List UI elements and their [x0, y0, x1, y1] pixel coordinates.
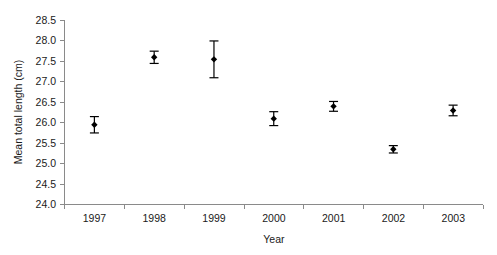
y-tick-label: 26.5	[36, 96, 57, 108]
x-axis-title: Year	[263, 233, 285, 245]
marker-diamond-icon	[211, 56, 217, 62]
y-tick-label: 26.0	[36, 116, 57, 128]
y-tick-label: 25.5	[36, 137, 57, 149]
y-tick-label: 24.5	[36, 178, 57, 190]
chart-container: 28.5 28.0 27.5 27.0 26.5 26.0 25.5 25.0 …	[0, 0, 497, 255]
y-axis-tick-labels: 28.5 28.0 27.5 27.0 26.5 26.0 25.5 25.0 …	[36, 14, 57, 210]
x-tick-label: 2000	[262, 212, 286, 224]
y-axis-title: Mean total length (cm)	[12, 60, 24, 164]
marker-diamond-icon	[330, 103, 336, 109]
x-tick-label: 2001	[322, 212, 346, 224]
y-tick-label: 25.0	[36, 157, 57, 169]
data-point	[449, 105, 458, 116]
data-point	[269, 112, 278, 126]
data-point-layer	[90, 41, 458, 153]
marker-diamond-icon	[271, 115, 277, 121]
marker-diamond-icon	[151, 54, 157, 60]
x-tick-label: 2003	[442, 212, 466, 224]
data-point	[150, 51, 159, 63]
marker-diamond-icon	[91, 122, 97, 128]
scatter-plot-with-error-bars: 28.5 28.0 27.5 27.0 26.5 26.0 25.5 25.0 …	[0, 0, 497, 255]
x-axis-ticks	[65, 205, 484, 210]
x-tick-label: 1998	[143, 212, 167, 224]
y-tick-label: 27.5	[36, 55, 57, 67]
marker-diamond-icon	[450, 107, 456, 113]
data-point	[90, 117, 99, 133]
x-axis-tick-labels: 1997 1998 1999 2000 2001 2002 2003	[83, 212, 465, 224]
y-tick-label: 28.5	[36, 14, 57, 26]
marker-diamond-icon	[390, 146, 396, 152]
data-point	[389, 146, 398, 153]
data-point	[209, 41, 218, 78]
y-tick-label: 27.0	[36, 75, 57, 87]
data-point	[329, 101, 338, 111]
y-tick-label: 24.0	[36, 198, 57, 210]
y-tick-label: 28.0	[36, 34, 57, 46]
y-axis-ticks	[60, 21, 65, 205]
x-tick-label: 1997	[83, 212, 107, 224]
x-tick-label: 2002	[382, 212, 406, 224]
x-tick-label: 1999	[202, 212, 226, 224]
